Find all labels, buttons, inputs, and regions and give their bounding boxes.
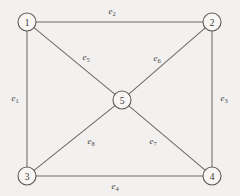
edge-label-subscript-e7: 7 <box>153 140 156 147</box>
edge-label-e5: e5 <box>82 53 89 62</box>
edge-label-subscript-e4: 4 <box>115 185 118 192</box>
edge-label-e6: e6 <box>153 54 160 63</box>
graph-node-4: 4 <box>203 167 221 185</box>
node-label-2: 2 <box>210 18 215 28</box>
edge-label-subscript-e3: 3 <box>224 97 227 104</box>
edge-label-subscript-e5: 5 <box>86 56 89 63</box>
node-label-4: 4 <box>210 172 215 182</box>
edge-label-e3: e3 <box>220 94 227 103</box>
edge-label-e2: e2 <box>108 7 115 16</box>
node-label-5: 5 <box>120 96 125 106</box>
edge-label-subscript-e8: 8 <box>91 140 94 147</box>
graph-edge-e8 <box>34 106 115 171</box>
node-label-3: 3 <box>25 172 30 182</box>
edge-label-e8: e8 <box>87 137 94 146</box>
graph-edge-e6 <box>129 28 205 94</box>
edge-label-e4: e4 <box>111 182 118 191</box>
graph-node-5: 5 <box>113 91 131 109</box>
graph-edge-e7 <box>129 106 205 170</box>
edge-label-subscript-e6: 6 <box>157 57 160 64</box>
graph-node-1: 1 <box>18 13 36 31</box>
node-label-1: 1 <box>25 18 30 28</box>
edge-label-subscript-e2: 2 <box>112 10 115 17</box>
graph-node-2: 2 <box>203 13 221 31</box>
edge-label-e7: e7 <box>149 137 156 146</box>
graph-node-3: 3 <box>18 167 36 185</box>
edge-label-subscript-e1: 1 <box>15 97 18 104</box>
graph-diagram: 12345 e1e2e3e4e5e6e7e8 <box>0 0 240 196</box>
graph-canvas: 12345 <box>0 0 240 196</box>
graph-edge-e5 <box>34 28 115 95</box>
edge-label-e1: e1 <box>11 94 18 103</box>
